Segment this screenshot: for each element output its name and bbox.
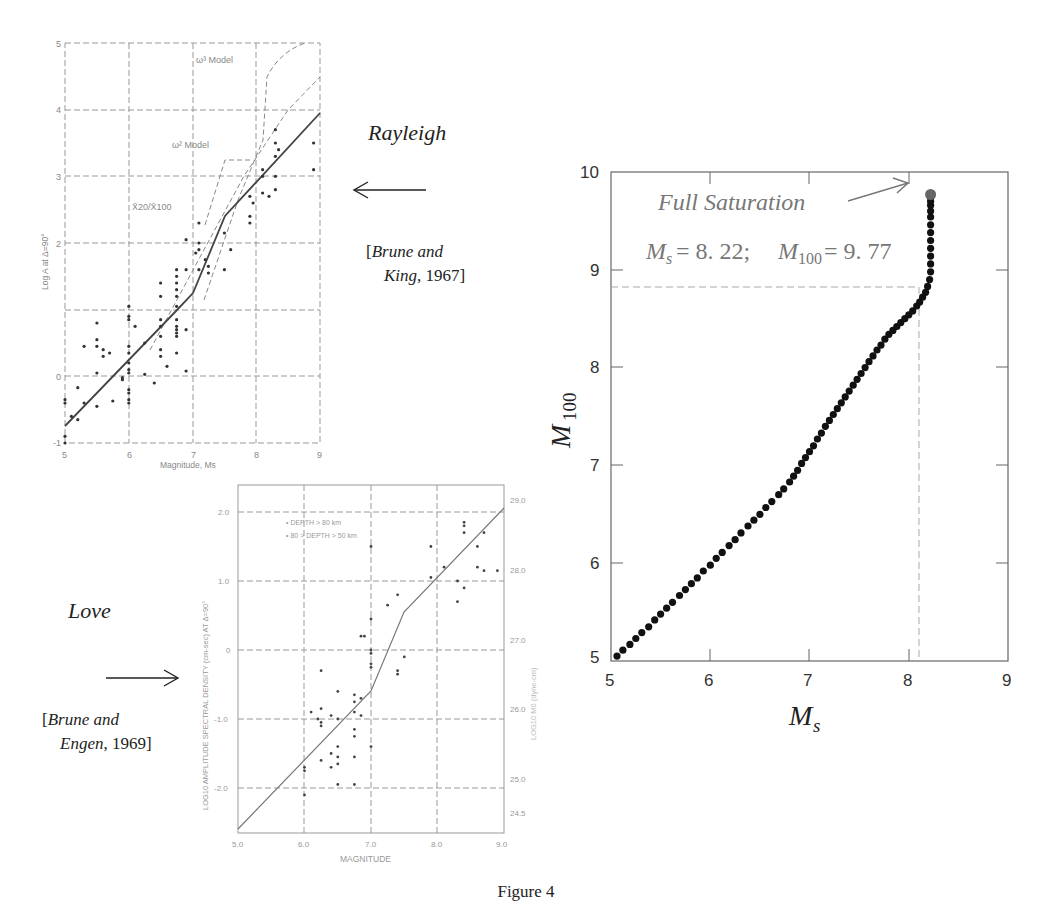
data-point — [713, 555, 720, 562]
svg-text:8: 8 — [903, 671, 912, 690]
svg-text:100: 100 — [798, 250, 822, 267]
data-point — [858, 370, 865, 377]
data-point — [924, 283, 931, 290]
svg-text:7: 7 — [590, 456, 599, 475]
svg-text:9: 9 — [1002, 671, 1011, 690]
svg-text:5: 5 — [590, 648, 599, 667]
data-point — [353, 783, 356, 786]
svg-text:s: s — [666, 250, 672, 267]
data-point — [814, 435, 821, 442]
love-xlabel: MAGNITUDE — [340, 854, 391, 864]
data-point — [768, 498, 775, 505]
data-point — [330, 766, 333, 769]
data-point — [794, 467, 801, 474]
svg-text:M: M — [545, 423, 576, 449]
svg-text:9.0: 9.0 — [496, 840, 508, 849]
svg-text:M: M — [645, 238, 668, 264]
saturation-chart: 10 9 8 7 6 5 5 6 7 8 9 M s M 100 Full Sa… — [0, 0, 1052, 760]
data-point — [927, 253, 934, 260]
svg-text:= 8. 22;: = 8. 22; — [676, 238, 750, 264]
svg-text:= 9. 77: = 9. 77 — [824, 238, 892, 264]
svg-text:5.0: 5.0 — [232, 840, 244, 849]
data-point — [657, 611, 664, 618]
data-point — [927, 229, 934, 236]
data-point — [303, 769, 306, 772]
data-point — [700, 567, 707, 574]
saturation-formula: M s = 8. 22; M 100 = 9. 77 — [645, 238, 892, 267]
svg-text:-2.0: -2.0 — [214, 784, 228, 793]
data-point — [802, 454, 809, 461]
data-point — [613, 653, 620, 660]
saturation-xlabel: M s — [788, 700, 820, 736]
figure-caption: Figure 4 — [0, 882, 1052, 902]
annotation-arrow-icon — [848, 178, 908, 201]
data-point — [927, 237, 934, 244]
data-point — [626, 641, 633, 648]
data-point — [846, 388, 853, 395]
data-point — [303, 794, 306, 797]
svg-text:M: M — [788, 700, 814, 731]
data-point — [926, 276, 933, 283]
saturation-y-ticks: 10 9 8 7 6 5 — [580, 163, 599, 667]
svg-text:25.0: 25.0 — [510, 775, 526, 784]
data-point — [744, 522, 751, 529]
svg-text:7: 7 — [803, 671, 812, 690]
data-point — [732, 536, 739, 543]
data-point — [663, 605, 670, 612]
data-point — [818, 430, 825, 437]
svg-text:8: 8 — [590, 358, 599, 377]
data-point — [694, 574, 701, 581]
love-x-ticks: 5.0 6.0 7.0 8.0 9.0 — [232, 840, 508, 849]
data-point — [682, 586, 689, 593]
saturation-reference-lines — [611, 287, 919, 661]
full-saturation-point — [925, 189, 936, 200]
data-point — [927, 245, 934, 252]
data-point — [877, 342, 884, 349]
svg-text:6: 6 — [590, 554, 599, 573]
data-point — [651, 616, 658, 623]
data-point — [737, 529, 744, 536]
svg-text:M: M — [777, 238, 800, 264]
data-point — [850, 382, 857, 389]
data-point — [927, 268, 934, 275]
data-point — [632, 635, 639, 642]
data-point — [726, 542, 733, 549]
svg-text:24.5: 24.5 — [510, 809, 526, 818]
data-point — [834, 405, 841, 412]
data-point — [869, 352, 876, 359]
svg-text:6.0: 6.0 — [298, 840, 310, 849]
data-point — [862, 364, 869, 371]
data-point — [838, 399, 845, 406]
svg-text:8.0: 8.0 — [431, 840, 443, 849]
data-point — [822, 423, 829, 430]
data-point — [790, 473, 797, 480]
data-point — [336, 783, 339, 786]
saturation-ylabel: M 100 — [545, 393, 580, 450]
data-point — [927, 260, 934, 267]
svg-text:s: s — [813, 715, 820, 736]
data-point — [927, 221, 934, 228]
data-point — [762, 504, 769, 511]
data-point — [676, 592, 683, 599]
saturation-plot-frame — [611, 172, 1008, 661]
data-point — [669, 599, 676, 606]
data-point — [688, 580, 695, 587]
data-point — [756, 511, 763, 518]
full-saturation-label: Full Saturation — [657, 189, 805, 215]
data-point — [638, 629, 645, 636]
data-point — [826, 417, 833, 424]
data-point — [719, 549, 726, 556]
svg-text:6: 6 — [704, 671, 713, 690]
data-point — [810, 442, 817, 449]
data-point — [645, 623, 652, 630]
data-point — [806, 448, 813, 455]
data-point — [303, 766, 306, 769]
svg-text:5: 5 — [605, 671, 614, 690]
svg-text:10: 10 — [580, 163, 599, 182]
data-point — [619, 647, 626, 654]
svg-text:7.0: 7.0 — [365, 840, 377, 849]
data-point — [750, 517, 757, 524]
svg-text:9: 9 — [590, 261, 599, 280]
data-point — [336, 763, 339, 766]
saturation-x-ticks: 5 6 7 8 9 — [605, 671, 1011, 690]
